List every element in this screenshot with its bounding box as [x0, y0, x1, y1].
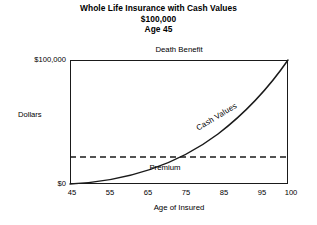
x-tick-75: 75 [182, 188, 190, 197]
premium-label: Premium [70, 163, 260, 172]
chart-title-line-3: Age 45 [0, 24, 317, 35]
chart-title-line-2: $100,000 [0, 14, 317, 25]
x-tick-85: 85 [220, 188, 228, 197]
y-axis-title: Dollars [18, 110, 66, 119]
x-axis-title: Age of Insured [70, 203, 288, 212]
x-tick-65: 65 [144, 188, 152, 197]
y-axis-max-label: $100,000 [20, 55, 66, 64]
y-axis-min-label: $0 [36, 179, 66, 188]
x-tick-95: 95 [258, 188, 266, 197]
chart-title-block: Whole Life Insurance with Cash Values $1… [0, 3, 317, 35]
chart-canvas: Whole Life Insurance with Cash Values $1… [0, 0, 317, 225]
death-benefit-label: Death Benefit [70, 45, 288, 54]
x-tick-55: 55 [106, 188, 114, 197]
chart-title-line-1: Whole Life Insurance with Cash Values [0, 3, 317, 14]
x-tick-100: 100 [285, 188, 298, 197]
x-tick-45: 45 [68, 188, 76, 197]
